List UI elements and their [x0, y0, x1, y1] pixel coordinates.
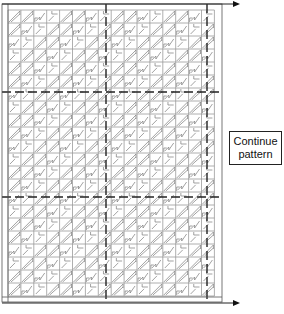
pattern-stroke [151, 128, 162, 139]
pattern-stroke [22, 115, 33, 126]
pattern-stroke [190, 206, 201, 217]
pattern-stroke [35, 141, 46, 152]
pattern-stroke [139, 24, 148, 34]
pattern-stroke [112, 232, 123, 243]
pattern-stroke [49, 115, 58, 125]
pattern-stroke [99, 180, 110, 191]
pattern-stroke [35, 169, 45, 178]
pattern-stroke [61, 11, 72, 22]
pattern-stroke [152, 271, 161, 281]
pattern-stroke [49, 219, 58, 229]
pattern-stroke [151, 180, 162, 191]
pattern-stroke [35, 50, 46, 61]
pattern-stroke [35, 117, 45, 126]
pattern-stroke [48, 193, 59, 204]
pattern-stroke [177, 50, 188, 61]
pattern-stroke [125, 26, 135, 35]
pattern-stroke [74, 271, 85, 282]
pattern-stroke [138, 37, 149, 48]
pattern-stroke [190, 169, 200, 178]
pattern-stroke [191, 180, 200, 190]
pattern-stroke [204, 167, 213, 177]
pattern-stroke [126, 193, 135, 203]
pattern-stroke [61, 128, 72, 139]
pattern-stroke [48, 180, 59, 191]
pattern-stroke [48, 245, 59, 256]
pattern-stroke [151, 76, 162, 87]
pattern-stroke [125, 271, 136, 282]
pattern-stroke [74, 154, 85, 165]
pattern-stroke [151, 24, 162, 35]
pattern-stroke [203, 180, 214, 191]
pattern-stroke [9, 271, 20, 282]
pattern-stroke [125, 78, 135, 87]
pattern-stroke [9, 180, 20, 191]
pattern-stroke [22, 154, 33, 165]
pattern-stroke [99, 76, 110, 87]
pattern-stroke [99, 208, 109, 217]
pattern-stroke [190, 89, 201, 100]
pattern-stroke [203, 24, 214, 35]
pattern-stroke [177, 154, 188, 165]
pattern-stroke [35, 65, 45, 74]
pattern-stroke [164, 128, 175, 139]
pattern-stroke [35, 273, 45, 282]
arrowhead-icon [233, 300, 240, 306]
pattern-stroke [165, 154, 174, 164]
pattern-stroke [112, 143, 122, 152]
pattern-stroke [112, 115, 123, 126]
pattern-stroke [190, 154, 201, 165]
pattern-stroke [49, 271, 58, 281]
pattern-stroke [10, 154, 19, 164]
pattern-stroke [165, 206, 174, 216]
pattern-stroke [9, 167, 20, 178]
pattern-stroke [112, 128, 123, 139]
pattern-stroke [62, 206, 71, 216]
pattern-stroke [112, 76, 123, 87]
pattern-stroke [112, 284, 123, 295]
pattern-stroke [113, 258, 122, 268]
pattern-stroke [164, 167, 175, 178]
pattern-stroke [86, 245, 97, 256]
pattern-stroke [48, 89, 59, 100]
pattern-stroke [204, 11, 213, 21]
pattern-stroke [190, 258, 201, 269]
pattern-stroke [99, 260, 109, 269]
pattern-stroke [164, 271, 175, 282]
pattern-stroke [112, 167, 123, 178]
pattern-stroke [99, 193, 110, 204]
pattern-stroke [204, 115, 213, 125]
pattern-stroke [74, 206, 85, 217]
pattern-stroke [164, 76, 175, 87]
pattern-stroke [48, 156, 58, 165]
pattern-stroke [100, 219, 109, 229]
pattern-stroke [22, 102, 33, 113]
pattern-stroke [151, 260, 161, 269]
pattern-stroke [190, 193, 201, 204]
pattern-stroke [178, 141, 187, 151]
pattern-stroke [49, 63, 58, 73]
pattern-stroke [74, 63, 85, 74]
pattern-stroke [190, 37, 201, 48]
pattern-stroke [138, 193, 149, 204]
pattern-stroke [99, 89, 110, 100]
pattern-stroke [22, 258, 33, 269]
pattern-stroke [113, 206, 122, 216]
pattern-stroke [125, 167, 136, 178]
pattern-stroke [22, 26, 32, 35]
pattern-stroke [112, 24, 123, 35]
pattern-stroke [86, 193, 97, 204]
pattern-stroke [36, 284, 45, 294]
pattern-stroke [164, 115, 175, 126]
pattern-stroke [48, 208, 58, 217]
pattern-stroke [203, 245, 214, 256]
pattern-stroke [10, 206, 19, 216]
pattern-stroke [35, 245, 46, 256]
pattern-stroke [138, 258, 149, 269]
pattern-stroke [112, 247, 122, 256]
pattern-stroke [100, 271, 109, 281]
pattern-stroke [74, 286, 84, 295]
pattern-stroke [191, 284, 200, 294]
pattern-stroke [61, 232, 72, 243]
pattern-stroke [138, 273, 148, 282]
